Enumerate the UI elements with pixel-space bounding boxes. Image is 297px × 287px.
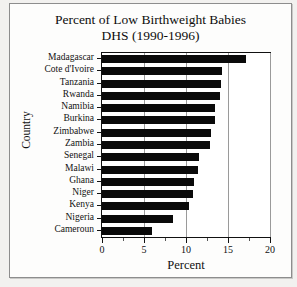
y-axis-label: Namibia	[61, 102, 94, 111]
bar	[102, 190, 193, 198]
bar	[102, 55, 246, 63]
bar	[102, 104, 215, 112]
x-axis-tick	[270, 238, 271, 243]
bar-row	[102, 202, 270, 210]
chart-figure: Percent of Low Birthweight Babies DHS (1…	[10, 4, 291, 277]
chart-title: Percent of Low Birthweight Babies DHS (1…	[10, 12, 291, 44]
bar	[102, 227, 152, 235]
chart-title-secondary: DHS (1990-1996)	[10, 28, 291, 44]
x-axis-minor-tick	[165, 238, 166, 241]
x-axis-tick	[144, 238, 145, 243]
x-axis-tick-label: 10	[173, 244, 199, 255]
y-axis-label: Cameroun	[54, 225, 94, 234]
x-axis-tick	[186, 238, 187, 243]
x-axis-tick	[102, 238, 103, 243]
bar-row	[102, 116, 270, 124]
x-axis-minor-tick	[249, 238, 250, 241]
x-axis-tick-label: 0	[89, 244, 115, 255]
y-axis-label: Zimbabwe	[53, 127, 94, 136]
x-axis-tick	[228, 238, 229, 243]
scanned-page-background: Percent of Low Birthweight Babies DHS (1…	[0, 0, 297, 287]
bar-row	[102, 153, 270, 161]
bar-row	[102, 227, 270, 235]
bar-row	[102, 129, 270, 137]
chart-title-primary: Percent of Low Birthweight Babies	[55, 12, 246, 27]
x-axis-minor-tick	[207, 238, 208, 241]
figure-outer-frame: Percent of Low Birthweight Babies DHS (1…	[9, 3, 292, 278]
y-axis-label: Senegal	[64, 151, 94, 160]
x-axis-minor-tick	[123, 238, 124, 241]
x-axis-tick-labels: 05101520	[101, 244, 271, 257]
gridline	[270, 53, 271, 237]
bar	[102, 215, 173, 223]
bar-row	[102, 166, 270, 174]
y-axis-label: Cote d'Ivoire	[45, 65, 94, 74]
x-axis-tick-label: 15	[215, 244, 241, 255]
bar	[102, 166, 198, 174]
bar	[102, 141, 210, 149]
y-axis-label: Burkina	[63, 114, 94, 123]
bar	[102, 67, 222, 75]
y-axis-label: Madagascar	[48, 53, 94, 62]
bar-row	[102, 141, 270, 149]
bar-row	[102, 215, 270, 223]
plot-area	[101, 52, 271, 238]
bar-row	[102, 190, 270, 198]
y-axis-label: Kenya	[69, 200, 94, 209]
bar	[102, 178, 194, 186]
bar-row	[102, 178, 270, 186]
bar	[102, 202, 189, 210]
y-axis-label: Tanzania	[60, 78, 94, 87]
bar	[102, 153, 199, 161]
bar-row	[102, 104, 270, 112]
bar-row	[102, 67, 270, 75]
y-axis-label: Malawi	[65, 164, 94, 173]
y-axis-label: Zambia	[65, 139, 94, 148]
y-axis-label: Nigeria	[66, 213, 95, 222]
x-axis-title: Percent	[101, 258, 271, 273]
bar-row	[102, 55, 270, 63]
y-axis-labels: MadagascarCote d'IvoireTanzaniaRwandaNam…	[10, 52, 98, 238]
bar-row	[102, 80, 270, 88]
bar	[102, 80, 221, 88]
x-axis-tick-label: 20	[257, 244, 283, 255]
bar	[102, 92, 220, 100]
y-axis-label: Niger	[72, 188, 94, 197]
bar	[102, 129, 211, 137]
bar-row	[102, 92, 270, 100]
bars-layer	[102, 53, 270, 237]
y-axis-label: Rwanda	[63, 90, 94, 99]
bar	[102, 116, 215, 124]
y-axis-label: Ghana	[69, 176, 94, 185]
x-axis-tick-label: 5	[131, 244, 157, 255]
